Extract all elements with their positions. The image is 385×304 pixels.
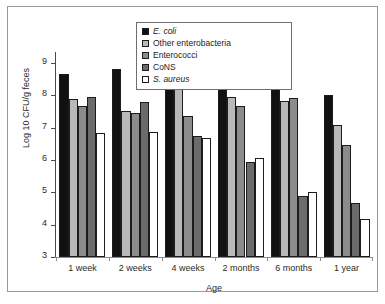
x-tick-mark	[56, 257, 57, 261]
figure-frame: E. coli Other enterobacteria Enterococci…	[7, 6, 378, 292]
bar	[333, 125, 342, 257]
legend-swatch-e-coli	[142, 28, 149, 35]
x-tick-label: 2 weeks	[109, 263, 162, 273]
chart-legend: E. coli Other enterobacteria Enterococci…	[136, 22, 292, 90]
bar	[96, 133, 105, 257]
y-tick-label: 6	[42, 153, 47, 163]
bar	[271, 79, 280, 257]
bar	[174, 82, 183, 257]
bar	[183, 116, 192, 257]
legend-item-s-aureus: S. aureus	[142, 74, 194, 85]
legend-swatch-enterococci	[142, 52, 149, 59]
bar	[360, 219, 369, 257]
bar	[140, 102, 149, 257]
bar-group	[324, 52, 370, 257]
y-tick-mark	[51, 160, 55, 161]
bar	[59, 74, 68, 257]
legend-item-e-coli: E. coli	[142, 26, 235, 37]
legend-label-e-coli: E. coli	[153, 27, 176, 36]
bar	[193, 136, 202, 257]
legend-item-other-enterobacteria: Other enterobacteria	[142, 38, 235, 49]
x-tick-label: 4 weeks	[162, 263, 215, 273]
bar	[165, 74, 174, 257]
y-tick-mark	[51, 95, 55, 96]
bar	[289, 98, 298, 257]
x-tick-mark	[109, 257, 110, 261]
y-tick-mark	[51, 128, 55, 129]
y-tick-label: 4	[42, 218, 47, 228]
y-tick-label: 5	[42, 185, 47, 195]
bar	[308, 192, 317, 257]
bar	[202, 138, 211, 257]
x-tick-label: 1 week	[56, 263, 109, 273]
legend-item-cons: CoNS	[142, 62, 194, 73]
bar	[351, 203, 360, 257]
legend-label-other-enterobacteria: Other enterobacteria	[153, 39, 231, 48]
y-tick-label: 7	[42, 121, 47, 131]
x-tick-label: 6 months	[267, 263, 320, 273]
y-axis-title: Log 10 CFU/g feces	[21, 48, 31, 168]
legend-label-enterococci: Enterococci	[153, 51, 197, 60]
legend-swatch-s-aureus	[142, 76, 149, 83]
x-tick-mark	[162, 257, 163, 261]
legend-label-s-aureus: S. aureus	[153, 75, 189, 84]
legend-swatch-other-enterobacteria	[142, 40, 149, 47]
bar	[280, 101, 289, 257]
legend-item-enterococci: Enterococci	[142, 50, 235, 61]
y-tick-mark	[51, 192, 55, 193]
bar	[112, 69, 121, 257]
bar-group	[59, 52, 105, 257]
bar	[342, 145, 351, 257]
y-tick-label: 3	[42, 250, 47, 260]
bar	[218, 81, 227, 257]
y-tick-mark	[51, 257, 55, 258]
bar	[255, 158, 264, 257]
legend-swatch-cons	[142, 64, 149, 71]
x-tick-mark	[372, 257, 373, 261]
y-tick-label: 9	[42, 56, 47, 66]
bar	[227, 97, 236, 257]
bar	[246, 162, 255, 257]
legend-column-right: CoNS S. aureus	[142, 62, 194, 86]
legend-label-cons: CoNS	[153, 63, 176, 72]
legend-column-left: E. coli Other enterobacteria Enterococci	[142, 26, 235, 62]
bar	[69, 99, 78, 257]
x-tick-mark	[320, 257, 321, 261]
figure: E. coli Other enterobacteria Enterococci…	[0, 0, 385, 304]
x-tick-label: 1 year	[320, 263, 373, 273]
x-tick-mark	[267, 257, 268, 261]
bar	[298, 196, 307, 257]
bar	[121, 111, 130, 257]
bar	[324, 95, 333, 257]
x-axis-title: Age	[55, 283, 373, 293]
bar	[78, 106, 87, 257]
y-tick-mark	[51, 225, 55, 226]
bar	[87, 97, 96, 257]
y-tick-mark	[51, 63, 55, 64]
bar	[131, 113, 140, 257]
y-tick-label: 8	[42, 88, 47, 98]
bar	[236, 106, 245, 257]
x-tick-label: 2 months	[215, 263, 268, 273]
bar	[149, 132, 158, 257]
x-tick-mark	[215, 257, 216, 261]
